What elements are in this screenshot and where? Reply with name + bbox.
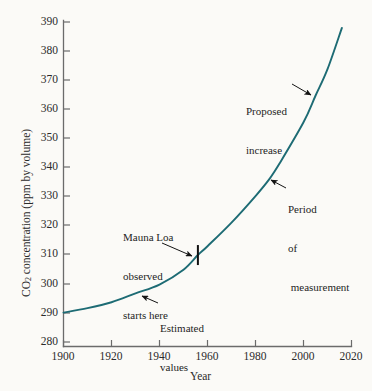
annotation-estimated-values-leader [142,296,158,303]
axis-lines [64,21,352,347]
plot-area [0,0,372,391]
x-axis-ticks [64,340,352,347]
annotation-mauna-loa-leader [162,243,192,256]
co2-curve-line [64,28,342,313]
annotation-proposed-leader [292,84,311,95]
y-axis-ticks [64,22,71,342]
co2-concentration-chart: CO2 concentration (ppm by volume) 390 38… [0,0,372,391]
annotation-period-leader [271,180,286,188]
